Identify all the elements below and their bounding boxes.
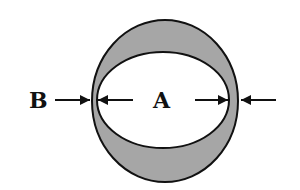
label-a: A: [152, 87, 171, 113]
label-b: B: [29, 87, 48, 113]
ellipse-diagram: B A: [0, 0, 300, 190]
